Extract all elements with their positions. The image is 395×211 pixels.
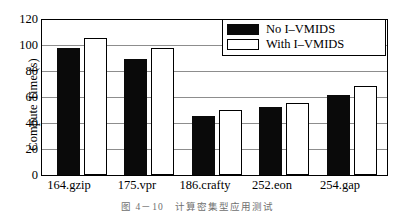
legend-swatch-light-icon — [227, 39, 259, 50]
bar-with-ivmids-186-crafty[interactable] — [219, 110, 242, 175]
y-tick-label: 80 — [4, 65, 38, 77]
bar-no-ivmids-186-crafty[interactable] — [192, 116, 215, 175]
legend-item-with-ivmids[interactable]: With I–VMIDS — [227, 37, 381, 52]
figure-container: Compute Time (s) 120 100 80 60 40 20 0 — [0, 0, 395, 211]
bar-with-ivmids-164-gzip[interactable] — [84, 38, 107, 175]
y-tick-label: 60 — [4, 91, 38, 103]
y-tick-label: 40 — [4, 117, 38, 129]
y-tick-label: 100 — [4, 39, 38, 51]
legend: No I–VMIDS With I–VMIDS — [222, 19, 386, 56]
bar-with-ivmids-252-eon[interactable] — [286, 103, 309, 175]
bar-with-ivmids-254-gap[interactable] — [354, 86, 377, 175]
bar-no-ivmids-164-gzip[interactable] — [57, 48, 80, 175]
y-tick-label: 120 — [4, 13, 38, 25]
legend-label-with-ivmids: With I–VMIDS — [266, 38, 344, 51]
figure-caption: 图 4－10 计算密集型应用测试 — [0, 199, 395, 211]
bar-no-ivmids-254-gap[interactable] — [327, 95, 350, 175]
x-tick-label-254-gap: 254.gap — [292, 178, 388, 192]
y-tick-label: 20 — [4, 143, 38, 155]
bar-no-ivmids-252-eon[interactable] — [259, 107, 282, 175]
legend-swatch-dark-icon — [227, 24, 259, 35]
bar-with-ivmids-175-vpr[interactable] — [151, 48, 174, 175]
legend-label-no-ivmids: No I–VMIDS — [266, 23, 335, 36]
bar-no-ivmids-175-vpr[interactable] — [124, 59, 147, 175]
legend-item-no-ivmids[interactable]: No I–VMIDS — [227, 22, 381, 37]
